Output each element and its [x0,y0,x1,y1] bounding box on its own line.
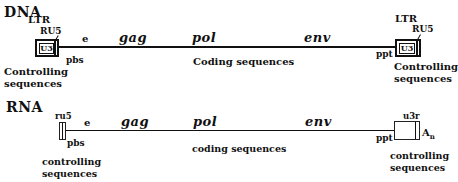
rna-genome-line [66,130,395,131]
rna-left-caption-line1: controlling [42,156,101,168]
dna-right-caption: Controlling sequences [394,61,458,85]
rna-left-caption-line2: sequences [42,168,101,180]
dna-gene-gag: gag [119,31,147,44]
rna-e-label: e [84,118,90,128]
rna-ru5-label: ru5 [55,112,72,121]
dna-left-caption-line2: sequences [4,78,68,90]
rna-polya-label: An [422,128,435,140]
dna-right-ltr-label: LTR [395,14,417,24]
dna-right-caption-line2: sequences [394,73,458,85]
rna-title: RNA [6,100,43,114]
rna-left-box-divider [62,123,63,139]
rna-gene-env: env [305,115,332,128]
dna-gene-pol: pol [192,31,216,44]
dna-right-ltr-box: U3 [395,39,421,57]
dna-left-u3-box: U3 [39,43,54,54]
dna-left-ltr-label: LTR [28,15,50,25]
rna-gene-gag: gag [121,115,149,128]
dna-right-r-bar [416,41,418,55]
rna-right-caption: controlling sequences [390,150,449,174]
dna-ppt-label: ppt [376,50,393,59]
dna-e-label: e [82,34,88,44]
rna-right-box [394,121,420,140]
dna-right-ru5-label: RU5 [412,25,434,34]
dna-left-caption: Controlling sequences [4,66,68,90]
rna-right-box-divider [415,122,416,139]
rna-pbs-label: pbs [67,139,85,148]
dna-gene-env: env [304,31,331,44]
rna-gene-pol: pol [193,115,217,128]
rna-u3r-label: u3r [403,112,420,121]
rna-right-caption-line2: sequences [390,162,449,174]
rna-coding-caption: coding sequences [192,143,286,155]
dna-coding-caption: Coding sequences [193,56,294,68]
rna-left-box [59,122,66,140]
dna-right-caption-line1: Controlling [394,61,458,73]
dna-left-r-bar [54,41,56,55]
dna-pbs-label: pbs [66,56,84,65]
dna-left-ltr-box: U3 [35,39,59,57]
rna-left-caption: controlling sequences [42,156,101,180]
rna-polya-n: n [430,132,435,141]
dna-genome-line [59,46,397,48]
rna-right-caption-line1: controlling [390,150,449,162]
dna-right-u3-box: U3 [399,43,415,54]
dna-left-caption-line1: Controlling [4,66,68,78]
rna-ppt-label: ppt [376,134,393,143]
rna-polya-a: A [422,127,430,138]
